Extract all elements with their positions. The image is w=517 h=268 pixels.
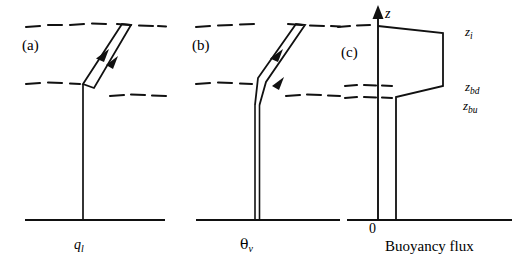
panel-c-upper-inversion-dashes bbox=[338, 25, 370, 27]
panel-a-axis-label-text: q bbox=[74, 237, 81, 252]
panel-a-upper-inversion-dashes bbox=[26, 24, 166, 28]
panel-b-upper-inversion-dashes bbox=[196, 24, 340, 27]
panel-a-axis-label: ql bbox=[74, 238, 84, 254]
level-label-zbd-subscript: bd bbox=[470, 86, 480, 96]
panel-b-updraft-arrowhead bbox=[272, 77, 284, 90]
level-label-zi-subscript: i bbox=[470, 31, 473, 41]
panel-a-axis-label-subscript: l bbox=[81, 243, 84, 254]
level-label-zbu: zbu bbox=[463, 99, 478, 115]
level-label-zbu-subscript: bu bbox=[468, 105, 478, 115]
panel-c-zbd-dashes bbox=[345, 85, 392, 86]
panel-b-lower-inversion-dashes-left bbox=[196, 83, 252, 85]
figure-container: (a) (b) (c) ql θv z zi zbd zbu 0 Buoyanc… bbox=[0, 0, 517, 268]
panel-b-tag: (b) bbox=[192, 38, 210, 53]
figure-drawing bbox=[0, 0, 517, 268]
panel-c-tag: (c) bbox=[341, 45, 358, 60]
panel-a-lower-inversion-dashes-left bbox=[26, 83, 80, 85]
panel-b-axis-label: θv bbox=[240, 237, 253, 254]
panel-a-drawing bbox=[25, 24, 166, 221]
panel-b-lower-inversion-dashes-right bbox=[286, 95, 340, 97]
panel-a-plume-outline bbox=[83, 24, 131, 88]
panel-b-axis-label-subscript: v bbox=[248, 243, 252, 254]
panel-c-z-axis-arrowhead bbox=[373, 5, 384, 19]
panel-a-lower-inversion-dashes-right bbox=[110, 95, 166, 97]
panel-c-drawing bbox=[338, 5, 512, 220]
panel-a-tag: (a) bbox=[22, 38, 39, 53]
panel-c-axis-label: Buoyancy flux bbox=[385, 239, 474, 254]
panel-c-origin-label: 0 bbox=[369, 222, 376, 236]
panel-b-drawing bbox=[196, 24, 340, 220]
level-label-zbd: zbd bbox=[465, 80, 480, 96]
level-label-zi: zi bbox=[465, 25, 473, 41]
panel-c-z-axis-label: z bbox=[385, 7, 390, 21]
panel-c-zbu-dashes bbox=[345, 97, 392, 98]
panel-b-plume-outline bbox=[255, 24, 305, 105]
panel-c-buoyancy-flux-profile bbox=[378, 26, 443, 220]
